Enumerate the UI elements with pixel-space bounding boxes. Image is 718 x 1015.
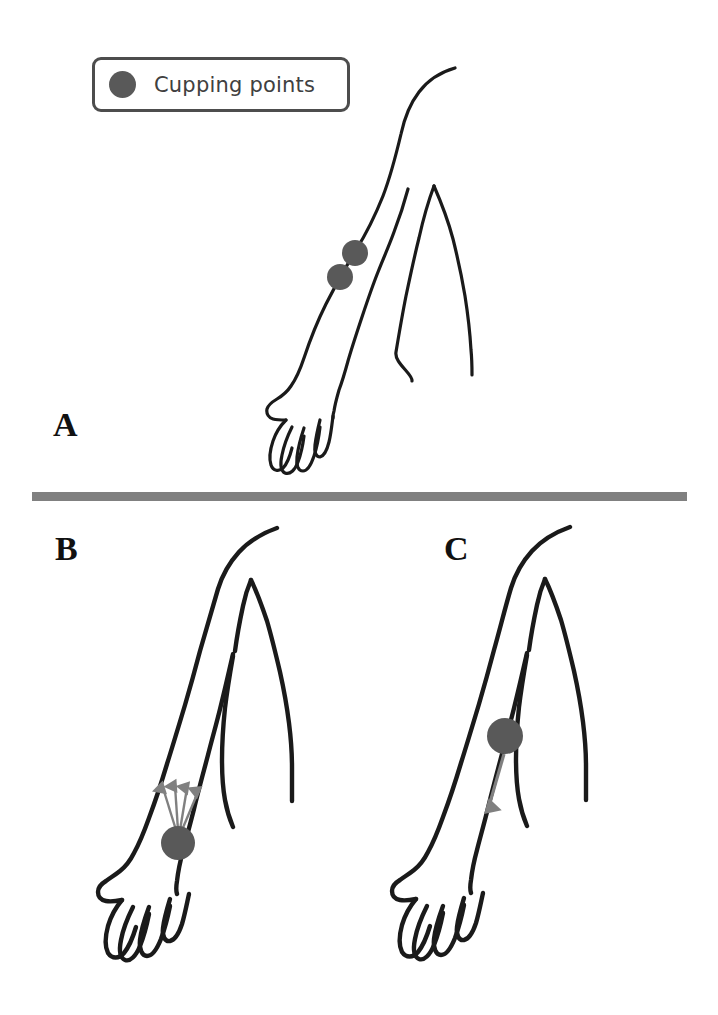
filled-circle-icon xyxy=(109,71,136,98)
panel-c-arrow-group xyxy=(489,754,504,806)
cupping-point-marker xyxy=(161,826,195,860)
flow-arrow xyxy=(175,786,178,830)
cupping-point-marker xyxy=(342,240,368,266)
panel-label-c: C xyxy=(444,532,469,566)
panel-label-b: B xyxy=(55,532,78,566)
cupping-point-marker xyxy=(327,264,353,290)
flow-arrow xyxy=(489,754,504,806)
horizontal-divider-bar xyxy=(32,492,687,501)
legend-label: Cupping points xyxy=(154,73,315,97)
flow-arrow xyxy=(163,788,176,830)
cupping-point-marker xyxy=(487,718,523,754)
legend-box: Cupping points xyxy=(92,57,350,112)
panel-a-arm-drawing xyxy=(267,68,472,473)
panel-label-a: A xyxy=(53,408,78,442)
figure-root: Cupping points A B C xyxy=(0,0,718,1015)
panel-b-arm-drawing xyxy=(98,528,292,960)
figure-illustration xyxy=(0,0,718,1015)
